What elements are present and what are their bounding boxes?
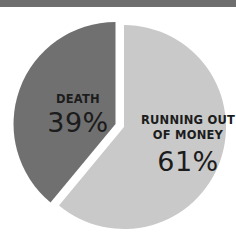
money-name-line2: OF MONEY [140,128,236,143]
death-label: DEATH 39% [42,92,114,139]
money-percent: 61% [140,146,236,178]
death-name: DEATH [42,92,114,107]
money-name-line1: RUNNING OUT [140,113,236,128]
death-percent: 39% [42,107,114,139]
running-out-of-money-label: RUNNING OUT OF MONEY 61% [140,113,236,178]
